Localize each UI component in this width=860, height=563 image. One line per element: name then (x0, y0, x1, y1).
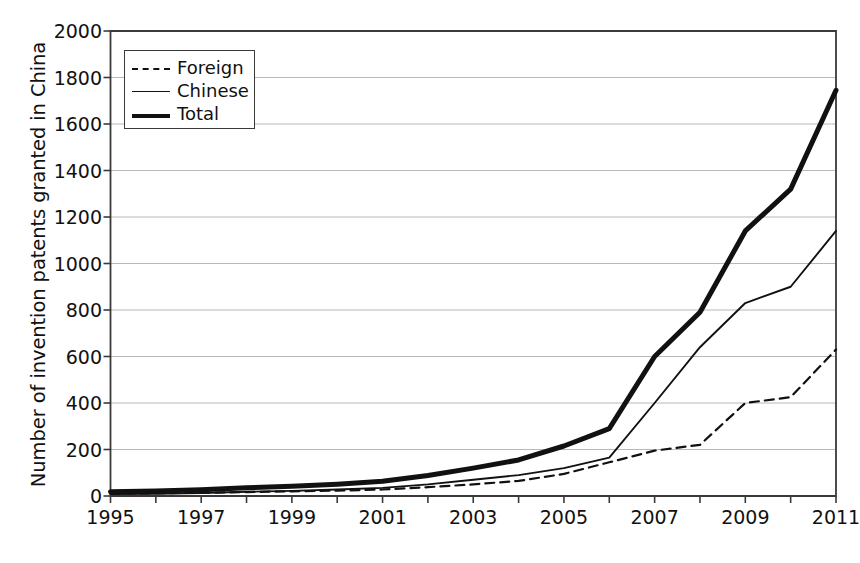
series-line-chinese (111, 231, 837, 494)
thin-solid-line-icon (132, 84, 170, 98)
legend-entry-total: Total (125, 102, 254, 125)
legend-label-chinese: Chinese (177, 82, 249, 100)
chart-legend: Foreign Chinese Total (124, 50, 255, 129)
legend-entry-foreign: Foreign (125, 56, 254, 79)
dashed-line-icon (132, 61, 170, 75)
series-line-foreign (111, 350, 837, 494)
thick-solid-line-icon (132, 107, 170, 121)
legend-entry-chinese: Chinese (125, 79, 254, 102)
legend-label-foreign: Foreign (177, 59, 244, 77)
data-series-group (111, 90, 837, 494)
series-line-total (111, 90, 837, 492)
legend-label-total: Total (177, 105, 219, 123)
